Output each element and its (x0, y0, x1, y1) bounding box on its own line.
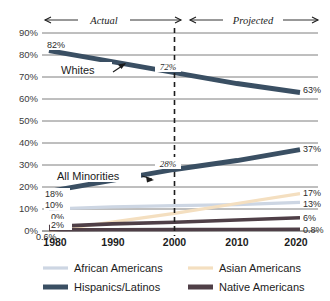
label-whites-start: 82% (47, 40, 65, 50)
legend-label-native-americans: Native Americans (219, 281, 305, 293)
ytick-60: 60% (19, 93, 39, 104)
xtick-2010: 2010 (225, 236, 249, 248)
end-value-labels: 63% 37% 17% 13% 6% 0.8% (303, 85, 324, 235)
xtick-1980: 1980 (43, 236, 67, 248)
ytick-30: 30% (19, 159, 39, 170)
population-projection-chart: Actual Projected 90% 80% 70% 60% (0, 0, 330, 301)
label-native-end: 0.8% (303, 225, 324, 235)
label-asian-end: 17% (303, 188, 321, 198)
ytick-90: 90% (19, 27, 39, 38)
chart-legend: African Americans Asian Americans Hispan… (43, 262, 305, 293)
label-hispanic-end: 6% (303, 213, 316, 223)
xtick-2020: 2020 (284, 236, 308, 248)
legend-label-hispanics-latinos: Hispanics/Latinos (74, 281, 161, 293)
y-axis-ticks: 90% 80% 70% 60% 50% 40% 30% 20% 10% 0% (19, 27, 39, 236)
ytick-70: 70% (19, 71, 39, 82)
label-minorities-end: 37% (303, 144, 321, 154)
xtick-2000: 2000 (163, 236, 187, 248)
ytick-10: 10% (19, 203, 39, 214)
ytick-40: 40% (19, 137, 39, 148)
phase-label-projected: Projected (232, 15, 274, 26)
ytick-50: 50% (19, 115, 39, 126)
label-whites-end: 63% (303, 85, 321, 95)
x-axis-ticks: 1980 1990 2000 2010 2020 (43, 236, 308, 248)
label-minorities-start: 18% (45, 189, 63, 199)
ytick-80: 80% (19, 49, 39, 60)
label-hispanic-start: 2% (51, 220, 64, 230)
legend-label-african-americans: African Americans (74, 262, 163, 274)
mid-value-labels: 72% 28% (155, 60, 181, 169)
annotation-label-all-minorities: All Minorities (57, 170, 120, 182)
ytick-20: 20% (19, 181, 39, 192)
xtick-1990: 1990 (101, 236, 125, 248)
label-african-end: 13% (303, 199, 321, 209)
legend-label-asian-americans: Asian Americans (219, 262, 301, 274)
annotation-all-minorities: All Minorities (56, 168, 154, 183)
label-minorities-mid: 28% (160, 159, 177, 169)
phase-label-actual: Actual (89, 15, 117, 26)
minorities-pointer-arrowhead (146, 177, 154, 183)
chart-canvas: Actual Projected 90% 80% 70% 60% (0, 0, 330, 301)
label-african-start: 10% (45, 200, 63, 210)
label-whites-mid: 72% (160, 62, 177, 72)
annotation-label-whites: Whites (61, 64, 95, 76)
phase-header: Actual Projected (45, 13, 318, 27)
